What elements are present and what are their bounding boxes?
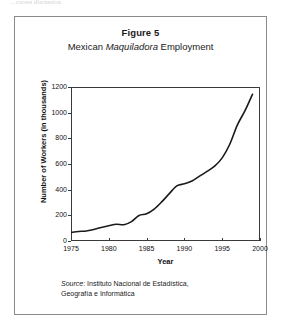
source-label: Source bbox=[61, 280, 83, 287]
source-note: Source: Instituto Nacional de Estadístic… bbox=[61, 279, 261, 299]
figure-subtitle: Mexican Maquiladora Employment bbox=[15, 41, 266, 52]
chart-area: Number of Workers (in thousands) 0200400… bbox=[23, 65, 260, 275]
x-tick-label: 1975 bbox=[54, 245, 88, 252]
x-tick-mark bbox=[260, 238, 261, 241]
y-tick-mark bbox=[68, 241, 71, 242]
figure-label: Figure 5 bbox=[15, 27, 266, 38]
data-series-line bbox=[71, 87, 260, 241]
y-tick-label: 600 bbox=[37, 160, 67, 168]
subtitle-part-post: Employment bbox=[158, 41, 213, 52]
page-canvas: …rocess discussion Figure 5 Mexican Maqu… bbox=[0, 0, 281, 331]
x-tick-label: 1980 bbox=[92, 245, 126, 252]
y-tick-label: 1000 bbox=[37, 109, 67, 117]
y-tick-label: 800 bbox=[37, 134, 67, 142]
x-tick-label: 1985 bbox=[130, 245, 164, 252]
y-tick-label: 1200 bbox=[37, 83, 67, 91]
y-tick-label: 400 bbox=[37, 186, 67, 194]
figure-box: Figure 5 Mexican Maquiladora Employment … bbox=[14, 16, 267, 315]
y-tick-label: 0 bbox=[37, 237, 67, 245]
source-text-line1: : Instituto Nacional de Estadística, bbox=[83, 280, 188, 287]
subtitle-part-pre: Mexican bbox=[68, 41, 106, 52]
x-tick-label: 2000 bbox=[243, 245, 277, 252]
page-top-cut-text: …rocess discussion bbox=[10, 0, 130, 6]
y-tick-label: 200 bbox=[37, 211, 67, 219]
x-tick-label: 1995 bbox=[205, 245, 239, 252]
x-tick-label: 1990 bbox=[167, 245, 201, 252]
source-text-line2: Geografía e Informática bbox=[61, 290, 135, 297]
x-axis-title: Year bbox=[71, 257, 260, 266]
subtitle-part-italic: Maquiladora bbox=[106, 41, 158, 52]
